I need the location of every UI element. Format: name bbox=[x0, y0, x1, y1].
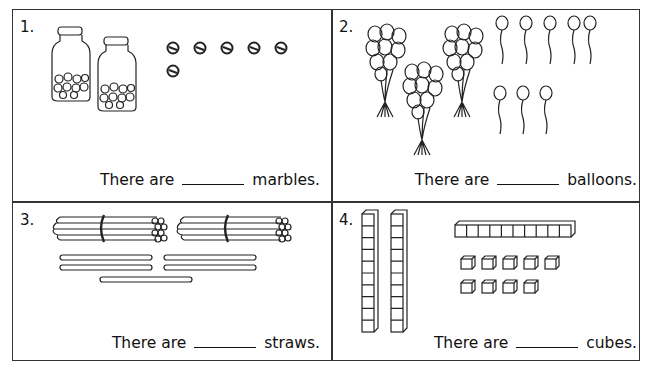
answer-sentence: There areballoons. bbox=[415, 170, 637, 189]
answer-sentence: There arestraws. bbox=[112, 333, 320, 352]
sentence-suffix: marbles. bbox=[252, 171, 320, 189]
sentence-suffix: cubes. bbox=[586, 334, 637, 352]
answer-sentence: There arecubes. bbox=[434, 333, 637, 352]
row-divider bbox=[13, 201, 639, 203]
answer-blank[interactable] bbox=[516, 333, 578, 348]
sentence-suffix: straws. bbox=[264, 334, 320, 352]
loose-straws bbox=[58, 253, 203, 288]
answer-blank[interactable] bbox=[497, 170, 559, 185]
sentence-prefix: There are bbox=[434, 334, 508, 352]
horizontal-ten-rod-icon bbox=[454, 220, 576, 238]
sentence-prefix: There are bbox=[100, 171, 174, 189]
answer-blank[interactable] bbox=[194, 333, 256, 348]
answer-sentence: There aremarbles. bbox=[100, 170, 320, 189]
sentence-prefix: There are bbox=[415, 171, 489, 189]
answer-blank[interactable] bbox=[182, 170, 244, 185]
loose-marbles bbox=[160, 35, 300, 80]
ten-rod-icon bbox=[390, 209, 408, 334]
problem-number: 4. bbox=[339, 211, 353, 229]
ten-rod-icon bbox=[361, 209, 379, 334]
marble-jar-icon bbox=[50, 25, 95, 105]
sentence-suffix: balloons. bbox=[567, 171, 637, 189]
sentence-prefix: There are bbox=[112, 334, 186, 352]
column-divider bbox=[331, 10, 333, 360]
problem-number: 3. bbox=[20, 211, 34, 229]
balloon-bunch-icon bbox=[442, 22, 487, 117]
single-balloons bbox=[490, 14, 610, 139]
marble-jar-icon bbox=[96, 35, 141, 115]
problem-number: 2. bbox=[339, 18, 353, 36]
unit-cubes bbox=[460, 255, 570, 295]
straw-bundle-icon bbox=[176, 213, 296, 243]
straw-bundle-icon bbox=[52, 213, 172, 243]
problem-number: 1. bbox=[20, 18, 34, 36]
balloon-bunch-icon bbox=[402, 60, 447, 155]
